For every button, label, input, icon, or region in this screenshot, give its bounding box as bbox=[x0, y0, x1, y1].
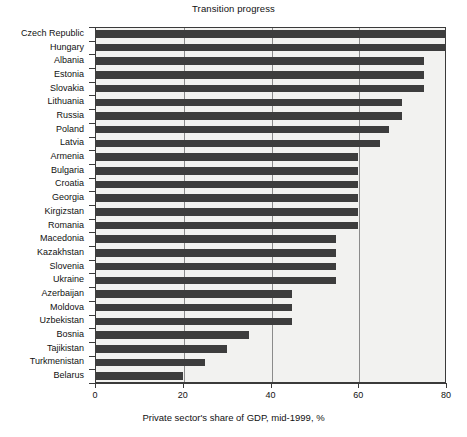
bar-row bbox=[95, 44, 446, 52]
bar bbox=[95, 194, 358, 202]
bar bbox=[95, 359, 205, 367]
x-tick-0 bbox=[95, 383, 96, 388]
category-tick bbox=[89, 232, 95, 233]
category-tick bbox=[89, 27, 95, 28]
bar bbox=[95, 277, 336, 285]
bar bbox=[95, 331, 249, 339]
bar-row bbox=[95, 345, 446, 353]
bar-row bbox=[95, 249, 446, 257]
x-tick-60 bbox=[358, 383, 359, 388]
bar-row bbox=[95, 290, 446, 298]
bar bbox=[95, 208, 358, 216]
bar-row bbox=[95, 71, 446, 79]
x-tick-20 bbox=[183, 383, 184, 388]
category-label: Azerbaijan bbox=[41, 288, 84, 298]
category-tick bbox=[89, 356, 95, 357]
bar-chart: Transition progress Czech RepublicHungar… bbox=[0, 0, 467, 437]
bar bbox=[95, 181, 358, 189]
category-axis: Czech RepublicHungaryAlbaniaEstoniaSlova… bbox=[0, 27, 95, 383]
category-tick bbox=[89, 150, 95, 151]
bar bbox=[95, 30, 446, 38]
category-tick bbox=[89, 287, 95, 288]
bar bbox=[95, 167, 358, 175]
category-label: Bulgaria bbox=[51, 165, 84, 175]
category-label: Slovenia bbox=[49, 261, 84, 271]
bar-row bbox=[95, 318, 446, 326]
category-label: Croatia bbox=[55, 178, 84, 188]
bar bbox=[95, 44, 446, 52]
bar bbox=[95, 99, 402, 107]
bar-row bbox=[95, 372, 446, 380]
category-tick bbox=[89, 369, 95, 370]
category-label: Turkmenistan bbox=[30, 356, 84, 366]
x-tick-label: 40 bbox=[256, 390, 286, 400]
category-label: Estonia bbox=[54, 69, 84, 79]
category-tick bbox=[89, 328, 95, 329]
bar-row bbox=[95, 263, 446, 271]
bar-row bbox=[95, 208, 446, 216]
bar bbox=[95, 318, 292, 326]
bar bbox=[95, 372, 183, 380]
bar bbox=[95, 263, 336, 271]
x-tick-label: 60 bbox=[343, 390, 373, 400]
category-tick bbox=[89, 273, 95, 274]
category-tick bbox=[89, 109, 95, 110]
category-tick bbox=[89, 82, 95, 83]
bar-row bbox=[95, 222, 446, 230]
category-label: Uzbekistan bbox=[39, 315, 84, 325]
bar-row bbox=[95, 126, 446, 134]
category-tick bbox=[89, 246, 95, 247]
x-axis-title: Private sector's share of GDP, mid-1999,… bbox=[0, 412, 467, 423]
x-tick-label: 80 bbox=[431, 390, 461, 400]
bar-row bbox=[95, 167, 446, 175]
category-label: Bosnia bbox=[56, 329, 84, 339]
bar-row bbox=[95, 99, 446, 107]
bar-row bbox=[95, 194, 446, 202]
bar-row bbox=[95, 181, 446, 189]
bar bbox=[95, 222, 358, 230]
chart-title: Transition progress bbox=[0, 3, 467, 14]
category-label: Slovakia bbox=[50, 83, 84, 93]
category-label: Georgia bbox=[52, 192, 84, 202]
bar bbox=[95, 112, 402, 120]
category-tick bbox=[89, 54, 95, 55]
category-label: Romania bbox=[48, 220, 84, 230]
category-tick bbox=[89, 260, 95, 261]
bar-row bbox=[95, 359, 446, 367]
category-label: Kirgizstan bbox=[44, 206, 84, 216]
category-tick bbox=[89, 41, 95, 42]
x-tick-40 bbox=[271, 383, 272, 388]
category-label: Belarus bbox=[53, 370, 84, 380]
category-tick bbox=[89, 95, 95, 96]
category-label: Russia bbox=[56, 110, 84, 120]
category-tick bbox=[89, 315, 95, 316]
bar-row bbox=[95, 30, 446, 38]
bar-row bbox=[95, 331, 446, 339]
bar-row bbox=[95, 304, 446, 312]
bar bbox=[95, 126, 389, 134]
bar bbox=[95, 235, 336, 243]
bar bbox=[95, 153, 358, 161]
bar-row bbox=[95, 57, 446, 65]
bar bbox=[95, 249, 336, 257]
category-tick bbox=[89, 68, 95, 69]
category-label: Tajikistan bbox=[47, 343, 84, 353]
x-tick-label: 0 bbox=[80, 390, 110, 400]
category-tick bbox=[89, 178, 95, 179]
bars-layer bbox=[95, 27, 446, 383]
category-label: Ukraine bbox=[53, 274, 84, 284]
category-tick bbox=[89, 342, 95, 343]
x-tick-80 bbox=[446, 383, 447, 388]
category-tick bbox=[89, 301, 95, 302]
bar bbox=[95, 71, 424, 79]
category-label: Poland bbox=[56, 124, 84, 134]
bar-row bbox=[95, 140, 446, 148]
bar bbox=[95, 57, 424, 65]
bar-row bbox=[95, 85, 446, 93]
bar bbox=[95, 290, 292, 298]
category-label: Czech Republic bbox=[21, 28, 84, 38]
bar-row bbox=[95, 112, 446, 120]
category-label: Armenia bbox=[50, 151, 84, 161]
bar-row bbox=[95, 235, 446, 243]
category-label: Moldova bbox=[50, 302, 84, 312]
